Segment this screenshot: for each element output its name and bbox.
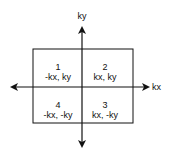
quadrant-1: 1 -kx, ky <box>33 62 83 82</box>
quadrant-4-coords: -kx, -ky <box>33 110 83 120</box>
quadrant-1-number: 1 <box>33 62 83 72</box>
quadrant-2-coords: kx, ky <box>80 72 130 82</box>
ky-axis-label: ky <box>74 11 90 21</box>
quadrant-2: 2 kx, ky <box>80 62 130 82</box>
quadrant-3: 3 kx, -ky <box>80 100 130 120</box>
quadrant-1-coords: -kx, ky <box>33 72 83 82</box>
quadrant-3-number: 3 <box>80 100 130 110</box>
quadrant-4: 4 -kx, -ky <box>33 100 83 120</box>
quadrant-3-coords: kx, -ky <box>80 110 130 120</box>
quadrant-4-number: 4 <box>33 100 83 110</box>
kx-axis-label: kx <box>152 82 161 92</box>
quadrant-2-number: 2 <box>80 62 130 72</box>
